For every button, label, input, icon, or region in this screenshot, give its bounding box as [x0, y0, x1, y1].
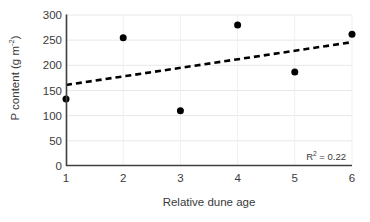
- scatter-plot-figure: P content (g m-2) 050100150200250300 123…: [0, 0, 370, 222]
- r-squared-suffix: = 0.22: [317, 151, 346, 162]
- data-point: [120, 34, 127, 41]
- data-point: [291, 68, 298, 75]
- data-point: [234, 22, 241, 29]
- x-axis-tick-label: 2: [110, 172, 136, 184]
- x-axis-tick-label: 6: [339, 172, 365, 184]
- x-axis-tick-label: 1: [53, 172, 79, 184]
- x-axis-title: Relative dune age: [66, 196, 352, 208]
- data-point: [349, 31, 356, 38]
- plot-area: R2 = 0.22: [66, 15, 352, 166]
- x-axis-tick-label: 3: [167, 172, 193, 184]
- trendline: [66, 42, 352, 85]
- plot-canvas: [66, 15, 352, 166]
- data-point: [177, 107, 184, 114]
- r-squared-annotation: R2 = 0.22: [306, 151, 346, 162]
- x-axis-tick-label: 5: [282, 172, 308, 184]
- x-axis-tick-label: 4: [225, 172, 251, 184]
